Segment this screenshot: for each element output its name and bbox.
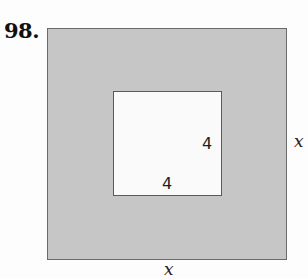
outer-bottom-side-label: x [164, 259, 174, 279]
inner-bottom-side-label: 4 [162, 174, 172, 193]
inner-right-side-label: 4 [202, 134, 212, 153]
problem-number: 98. [4, 18, 39, 43]
outer-right-side-label: x [294, 131, 304, 151]
